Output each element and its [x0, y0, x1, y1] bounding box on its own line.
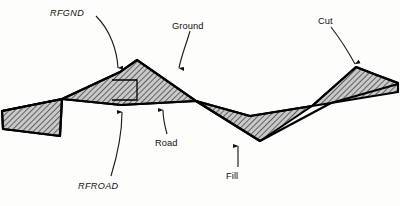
label-cut: Cut [318, 17, 333, 26]
label-rfroad: RFROAD [78, 182, 119, 191]
leader-rfroad [111, 112, 122, 176]
label-fill: Fill [226, 172, 238, 181]
leader-ground [179, 31, 190, 68]
region-cut-right [312, 67, 398, 106]
leader-cut [331, 27, 355, 64]
profile-lines [2, 60, 398, 141]
label-road: Road [155, 139, 178, 148]
figure-canvas: RFGND Ground Cut Road RFROAD Fill [0, 0, 400, 206]
label-ground: Ground [172, 22, 204, 31]
label-rfgnd: RFGND [50, 9, 84, 18]
region-fill-right [196, 101, 312, 141]
leader-road [163, 110, 167, 134]
leader-rfgnd [96, 16, 118, 68]
